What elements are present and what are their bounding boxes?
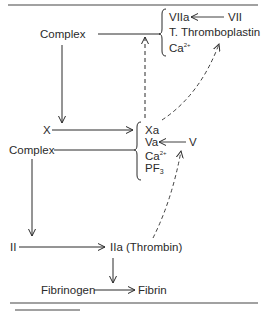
label-factor-vii: VII [228, 12, 242, 24]
label-calcium-top: Ca2+ [169, 42, 191, 55]
label-calcium-mid: Ca2+ [145, 150, 167, 163]
label-fibrinogen: Fibrinogen [41, 285, 95, 297]
calcium-top-text: Ca [169, 42, 184, 54]
brace-middle [134, 122, 141, 180]
label-factor-iia: IIa (Thrombin) [110, 242, 182, 254]
label-factor-x: X [43, 125, 51, 137]
calcium-mid-text: Ca [145, 150, 160, 162]
label-complex-mid: Complex [9, 145, 54, 157]
calcium-mid-charge: 2+ [160, 150, 167, 156]
label-factor-xa: Xa [145, 125, 159, 137]
dashed-xa-to-thromboplastin [162, 44, 219, 120]
label-factor-viia: VIIa [169, 12, 189, 24]
label-factor-va: Va [145, 137, 158, 149]
calcium-top-charge: 2+ [184, 42, 191, 48]
pf3-text: PF [145, 162, 160, 174]
label-complex-top: Complex [40, 29, 85, 41]
label-factor-ii: II [10, 242, 16, 254]
label-fibrin: Fibrin [138, 285, 167, 297]
label-factor-v: V [189, 137, 197, 149]
label-thromboplastin: T. Thromboplastin [169, 27, 260, 39]
label-pf3: PF3 [145, 163, 164, 175]
pf3-subscript: 3 [160, 168, 164, 175]
brace-top [159, 9, 166, 56]
